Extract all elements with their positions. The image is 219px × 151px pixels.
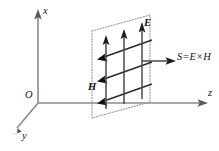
e-vector-1 xyxy=(103,35,110,109)
arrow-down-left-icon xyxy=(11,128,22,135)
electric-field-vectors xyxy=(103,22,146,109)
magnetic-field-label: H xyxy=(88,82,96,93)
origin-label: O xyxy=(25,90,33,101)
axis-x xyxy=(34,9,42,103)
electromagnetic-wave-figure: x y z O E H S=E×H xyxy=(0,0,219,151)
axis-z xyxy=(38,99,208,107)
axis-x-label: x xyxy=(43,6,48,17)
axis-y-label: y xyxy=(22,131,27,142)
electric-field-label: E xyxy=(144,18,151,29)
poynting-vector-label: S=E×H xyxy=(177,52,211,63)
h-vector-3-shaft xyxy=(104,84,152,101)
figure-canvas xyxy=(0,0,219,151)
h-vector-2-shaft xyxy=(104,62,152,79)
axis-z-label: z xyxy=(208,88,212,99)
axis-y-line xyxy=(17,103,38,128)
h-vector-1-shaft xyxy=(104,40,152,57)
